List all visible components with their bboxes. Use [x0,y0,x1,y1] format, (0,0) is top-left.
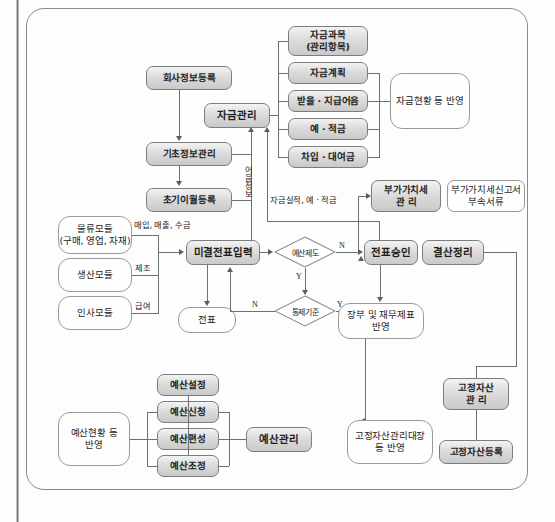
connector-right-spine [379,73,380,157]
connector-closing-down [516,252,517,367]
node-slip[interactable]: 전표 [178,307,236,333]
connector-spine-to-borrowing [278,157,288,158]
scan-edge-bar [16,0,19,522]
connector-bracket-to-budgetmgmt [229,439,246,440]
connector-company-to-base [179,90,180,137]
edge-label-note-info: 어음정보 [244,166,252,198]
node-logistics-module[interactable]: 물류모듈 (구매, 영업, 자재) [58,216,132,254]
node-fund-status-reflect[interactable]: 자금현황 등 반영 [390,73,470,129]
node-production-module[interactable]: 생산모듈 [58,258,132,292]
connector-budget-status-to-bracket [130,439,147,440]
connector-spine-to-notes [278,101,288,102]
connector-budget-chain [188,396,189,455]
connector-vat-corner [358,196,359,207]
connector-fundresult-h [267,221,380,222]
connector-budget-y [305,268,306,292]
decision-budget-system[interactable]: 예산제도 [274,236,336,268]
connector-base-right [232,154,252,155]
node-initial-carryover[interactable]: 초기이월등록 [146,188,232,212]
connector-hr-out [132,313,159,314]
node-budget-setting[interactable]: 예산설정 [157,374,219,396]
connector-spine-to-deposit [278,129,288,130]
node-deposit-installment[interactable]: 예 · 적금 [288,118,368,140]
node-fixed-asset-ledger[interactable]: 고정자산관리대장 등 반영 [347,420,433,464]
decision-budget-system-label: 예산제도 [274,236,336,268]
arrowhead-fundresult-to-fundmgmt [264,127,270,132]
connector-closing-right [484,252,517,253]
arrowhead-budget-n-to-approval [358,249,363,255]
arrowhead-approval-to-books [377,297,383,302]
connector-modules-spine [158,235,159,313]
connector-budget-n [336,252,360,253]
connector-control-n-v [230,272,231,312]
flowchart-page: 회사정보등록 기초정보관리 초기이월등록 어음정보 자금관리 자금실적, 예 ·… [0,0,555,522]
connector-note-to-fundmgmt [251,131,252,155]
connector-fundresult-up [267,131,268,222]
node-fund-subject[interactable]: 자금과목 (관리항목) [288,26,368,56]
connector-modules-to-slipinput [158,252,180,253]
node-hr-module[interactable]: 인사모듈 [58,296,132,330]
connector-vat-riser [358,206,359,252]
edge-label-fund-result: 자금실적, 예 · 적금 [270,193,337,205]
node-unsettled-slip-input[interactable]: 미결전표입력 [186,240,260,265]
arrowhead-slipinput-to-slip [204,301,210,306]
node-notes-receivable-payable[interactable]: 받을 · 지급어음 [288,90,368,112]
connector-budget-left-formulation [147,439,157,440]
node-closing-adjustment[interactable]: 결산정리 [422,240,484,265]
edge-label-payroll: 급여 [135,299,151,311]
edge-label-yes-budget: Y [296,272,302,281]
connector-budget-left-adjustment [147,466,157,467]
edge-label-manufacturing: 제조 [135,261,151,273]
connector-closing-to-fixedasset [476,366,517,367]
connector-fixedasset-riser [476,366,477,378]
arrowhead-base-to-carryover [176,181,182,186]
node-books-financial-statements[interactable]: 장부 및 재무제표 반영 [338,303,424,339]
connector-borrowing-right [368,157,380,158]
edge-label-no-budget: N [339,241,345,250]
connector-budget-right-request [219,412,229,413]
connector-production-out [132,275,159,276]
node-fixed-asset-register[interactable]: 고정자산등록 [439,440,513,464]
node-vat-report-attach[interactable]: 부가가치세신고서 부속서류 [447,180,525,212]
decision-control-standard[interactable]: 통제기준 [274,295,336,327]
decision-control-standard-label: 통제기준 [274,295,336,327]
connector-fixedasset-mgmt-to-register [476,410,477,440]
arrowhead-modules-to-slipinput [179,249,184,255]
node-company-info[interactable]: 회사정보등록 [146,66,232,90]
connector-spine-to-subject [278,41,288,42]
connector-budget-left-request [147,412,157,413]
connector-spine-to-plan [278,73,288,74]
node-vat-mgmt[interactable]: 부가가치세 관 리 [371,180,441,212]
arrowhead-control-n-to-slipinput [227,267,233,272]
connector-approval-to-books [380,265,381,299]
connector-logistics-out [132,235,159,236]
node-budget-adjustment[interactable]: 예산조정 [157,455,219,477]
node-slip-approval[interactable]: 전표승인 [364,240,418,265]
connector-slipinput-to-slip [207,265,208,303]
arrowhead-slipinput-to-decision [268,249,273,255]
node-borrowing-lending[interactable]: 차입 · 대여금 [288,146,368,168]
node-fund-mgmt[interactable]: 자금관리 [204,103,270,128]
node-budget-status-reflect[interactable]: 예산현황 등 반영 [58,412,130,466]
connector-budget-right-formulation [219,439,229,440]
node-base-info[interactable]: 기초정보관리 [146,142,232,166]
connector-fundmgmt-to-spine [270,115,278,116]
arrowhead-company-to-base [176,136,182,141]
connector-budget-right-adjustment [219,466,229,467]
connector-control-n-h [230,311,275,312]
node-fixed-asset-mgmt[interactable]: 고정자산 관 리 [443,378,509,410]
node-budget-mgmt[interactable]: 예산관리 [246,427,312,452]
connector-carryover-right [232,200,252,201]
arrowhead-to-vat [366,193,371,199]
edge-label-no-control: N [252,300,258,309]
node-fund-plan[interactable]: 자금계획 [288,62,368,84]
connector-fund-items-spine [278,41,279,157]
edge-label-purchase-sales-collection: 매입, 매출, 수금 [134,218,190,230]
connector-spine-to-status [379,101,390,102]
